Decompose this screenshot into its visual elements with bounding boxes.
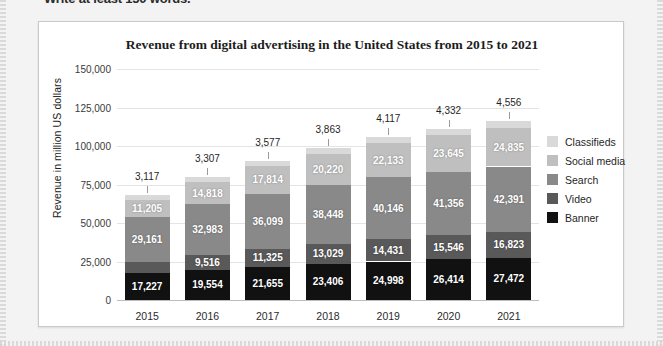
bar-segment-value: 41,356 (433, 198, 464, 209)
bar-segment-value: 20,220 (313, 164, 344, 175)
x-tick-label: 2015 (135, 310, 158, 322)
bar-segment-value: 24,998 (373, 275, 404, 286)
bar-segment[interactable]: 41,356 (426, 172, 471, 236)
bar-segment-value: 15,546 (433, 242, 464, 253)
bar-segment-value: 22,133 (373, 155, 404, 166)
bar-segment-value: 23,645 (433, 148, 464, 159)
bar-segment[interactable]: 22,133 (366, 143, 411, 177)
bar-segment[interactable]: 19,554 (185, 270, 230, 300)
bar-segment-value: 27,472 (494, 273, 525, 284)
bar-segment[interactable]: 11,205 (125, 200, 170, 217)
bar-group[interactable]: 27,47216,82342,39124,8354,5562021 (486, 69, 531, 300)
bar-segment-value: 11,325 (253, 252, 283, 263)
bar-segment[interactable] (366, 137, 411, 143)
bar-segment[interactable]: 27,472 (486, 258, 531, 300)
plot-area: Revenue in million US dollars 025,00050,… (39, 22, 625, 328)
legend-label: Video (565, 193, 592, 205)
bar-segment[interactable] (125, 195, 170, 200)
bar-segment[interactable]: 23,406 (306, 264, 351, 300)
bar-segment[interactable] (125, 262, 170, 274)
bar-segment[interactable]: 38,448 (306, 185, 351, 244)
legend-label: Social media (565, 155, 625, 167)
bar-top-annotation: 3,117 (135, 171, 159, 182)
bar-top-annotation: 3,863 (315, 124, 340, 135)
annotation-leader-line (207, 168, 208, 175)
bar-segment[interactable]: 17,227 (125, 273, 170, 300)
legend-label: Banner (565, 212, 599, 224)
bar-segment-value: 36,099 (252, 216, 283, 227)
legend-item[interactable]: Banner (547, 208, 627, 227)
x-tick-label: 2016 (196, 310, 219, 322)
annotation-leader-line (268, 152, 269, 159)
bar-segment[interactable]: 9,516 (185, 255, 230, 270)
bar-segment[interactable]: 26,414 (426, 259, 471, 300)
bar-group[interactable]: 17,22729,16111,2053,1172015 (125, 69, 170, 300)
legend-swatch-icon (547, 136, 558, 147)
legend-item[interactable]: Social media (547, 151, 627, 170)
bar-segment[interactable]: 40,146 (366, 177, 411, 239)
bar-segment-value: 40,146 (373, 203, 404, 214)
legend-swatch-icon (547, 193, 558, 204)
bar-segment[interactable]: 21,655 (245, 267, 290, 300)
x-tick-label: 2018 (316, 310, 339, 322)
bar-series-layer: 17,22729,16111,2053,117201519,5549,51632… (39, 22, 625, 328)
legend-swatch-icon (547, 212, 558, 223)
bar-segment-value: 14,431 (373, 245, 404, 256)
bar-segment[interactable] (486, 121, 531, 128)
annotation-leader-line (147, 186, 148, 193)
bar-top-annotation: 4,332 (436, 105, 461, 116)
annotation-leader-line (388, 128, 389, 135)
bar-segment-value: 19,554 (192, 279, 223, 290)
bar-segment-value: 42,391 (494, 194, 525, 205)
x-tick-label: 2017 (256, 310, 279, 322)
bar-group[interactable]: 19,5549,51632,98314,8183,3072016 (185, 69, 230, 300)
bar-segment[interactable]: 16,823 (486, 232, 531, 258)
page-edge-bottom (0, 341, 663, 346)
bar-segment-value: 29,161 (132, 234, 163, 245)
annotation-leader-line (509, 112, 510, 119)
bar-segment[interactable] (245, 161, 290, 167)
bar-segment[interactable]: 29,161 (125, 217, 170, 262)
bar-segment[interactable] (185, 177, 230, 182)
bar-segment[interactable]: 24,998 (366, 262, 411, 300)
bar-segment[interactable]: 13,029 (306, 244, 351, 264)
legend-item[interactable]: Classifieds (547, 132, 627, 151)
bar-segment[interactable]: 23,645 (426, 135, 471, 171)
legend-item[interactable]: Search (547, 170, 627, 189)
bar-group[interactable]: 24,99814,43140,14622,1334,1172019 (366, 69, 411, 300)
bar-segment-value: 23,406 (313, 276, 344, 287)
bar-segment[interactable] (426, 129, 471, 136)
bar-segment-value: 13,029 (313, 248, 344, 259)
bar-segment-value: 17,227 (132, 281, 163, 292)
bar-top-annotation: 3,307 (195, 153, 220, 164)
bar-segment[interactable]: 14,431 (366, 239, 411, 261)
bar-group[interactable]: 26,41415,54641,35623,6454,3322020 (426, 69, 471, 300)
x-tick-label: 2019 (377, 310, 400, 322)
chart-legend: ClassifiedsSocial mediaSearchVideoBanner (547, 132, 627, 227)
legend-swatch-icon (547, 155, 558, 166)
bar-segment[interactable]: 14,818 (185, 182, 230, 205)
bar-segment[interactable]: 20,220 (306, 154, 351, 185)
bar-segment[interactable] (306, 148, 351, 154)
bar-segment[interactable]: 32,983 (185, 204, 230, 255)
chart-card: Revenue from digital advertising in the … (38, 21, 624, 327)
legend-label: Search (565, 174, 598, 186)
bar-segment[interactable]: 15,546 (426, 235, 471, 259)
bar-segment[interactable]: 11,325 (245, 249, 290, 266)
annotation-leader-line (449, 120, 450, 127)
task-instruction-text: Write at least 150 words. (0, 0, 663, 9)
page-edge-left (0, 0, 6, 346)
page-root: Write at least 150 words. Revenue from d… (0, 0, 663, 346)
bar-group[interactable]: 23,40613,02938,44820,2203,8632018 (306, 69, 351, 300)
bar-segment-value: 16,823 (494, 239, 525, 250)
bar-segment[interactable]: 42,391 (486, 167, 531, 232)
bar-group[interactable]: 21,65511,32536,09917,8143,5772017 (245, 69, 290, 300)
bar-segment-value: 32,983 (192, 224, 223, 235)
legend-item[interactable]: Video (547, 189, 627, 208)
bar-top-annotation: 4,556 (496, 97, 521, 108)
legend-label: Classifieds (565, 136, 616, 148)
bar-segment-value: 14,818 (192, 188, 223, 199)
bar-segment[interactable]: 24,835 (486, 128, 531, 166)
bar-segment[interactable]: 36,099 (245, 194, 290, 250)
bar-segment[interactable]: 17,814 (245, 166, 290, 193)
